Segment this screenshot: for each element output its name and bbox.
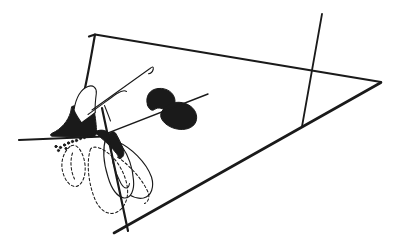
- viscidium-dot: [87, 135, 89, 137]
- viscidium-dot: [63, 144, 65, 146]
- viscidium-dot: [55, 145, 57, 147]
- viscidium-dot: [91, 133, 93, 135]
- viscidium-dot: [59, 146, 61, 148]
- viscidium-dot: [65, 147, 67, 149]
- viscidium-dot: [79, 137, 81, 139]
- pollinium-lobe-lower: [161, 102, 197, 129]
- viscidium-dot: [95, 132, 97, 134]
- figure: [0, 0, 397, 250]
- viscidium-dot: [67, 142, 69, 144]
- viscidium-dot: [57, 149, 59, 151]
- viscidium-dot: [83, 136, 85, 138]
- viscidium-dot: [75, 139, 77, 141]
- viscidium-dot: [71, 140, 73, 142]
- dashed-teardrop-inner: [71, 153, 75, 179]
- bristle-long: [92, 67, 153, 110]
- bristle-crossing: [105, 106, 111, 122]
- plane-top-edge: [89, 35, 381, 83]
- dashed-teardrop: [62, 145, 85, 186]
- figure-canvas: [0, 0, 397, 250]
